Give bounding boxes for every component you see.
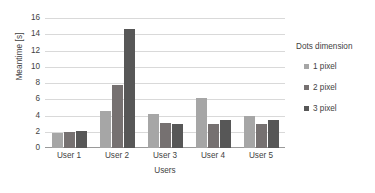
bar (268, 120, 279, 148)
bar (172, 124, 183, 148)
bar (244, 116, 255, 148)
bar (256, 124, 267, 148)
bars-layer (45, 18, 285, 148)
bar (208, 124, 219, 148)
bar (64, 132, 75, 148)
legend-label: 1 pixel (313, 62, 337, 71)
y-axis-tick-label: 6 (35, 95, 40, 103)
x-axis-tick-label: User 5 (237, 151, 285, 160)
bar-chart: Meantime [s] 0246810121416 User 1User 2U… (0, 0, 375, 193)
y-axis-tick-label: 0 (35, 144, 40, 152)
bar-group (93, 18, 141, 148)
bar-group (141, 18, 189, 148)
bar (220, 120, 231, 148)
y-axis-tick-label: 8 (35, 79, 40, 87)
y-axis-tick-label: 16 (31, 14, 40, 22)
bar (160, 123, 171, 148)
y-axis-tick-labels: 0246810121416 (22, 18, 40, 148)
bar (100, 111, 111, 148)
x-axis-tick-label: User 2 (93, 151, 141, 160)
legend-label: 2 pixel (313, 83, 337, 92)
legend-swatch-icon (304, 64, 309, 69)
x-axis-tick-labels: User 1User 2User 3User 4User 5 (45, 151, 285, 160)
legend-item[interactable]: 3 pixel (296, 104, 372, 113)
y-axis-tick-label: 14 (31, 30, 40, 38)
bar (76, 131, 87, 148)
bar-group (45, 18, 93, 148)
legend-item[interactable]: 1 pixel (296, 62, 372, 71)
legend-label: 3 pixel (313, 104, 337, 113)
y-axis-tick-label: 10 (31, 63, 40, 71)
bar (124, 29, 135, 148)
x-axis-tick-label: User 1 (45, 151, 93, 160)
y-axis-tick-label: 12 (31, 46, 40, 54)
bar (196, 98, 207, 148)
x-axis-tick-label: User 4 (189, 151, 237, 160)
bar (52, 133, 63, 148)
bar-group (237, 18, 285, 148)
bar (112, 85, 123, 148)
bar (148, 114, 159, 148)
plot-area (45, 18, 285, 148)
legend-title: Dots dimension (296, 42, 372, 51)
legend-swatch-icon (304, 85, 309, 90)
x-axis-tick-label: User 3 (141, 151, 189, 160)
legend-items: 1 pixel2 pixel3 pixel (296, 62, 372, 113)
legend-item[interactable]: 2 pixel (296, 83, 372, 92)
y-axis-tick-label: 2 (35, 128, 40, 136)
bar-group (189, 18, 237, 148)
y-axis-tick-label: 4 (35, 111, 40, 119)
legend: Dots dimension 1 pixel2 pixel3 pixel (296, 42, 372, 125)
legend-swatch-icon (304, 106, 309, 111)
x-axis-title: Users (45, 166, 285, 175)
